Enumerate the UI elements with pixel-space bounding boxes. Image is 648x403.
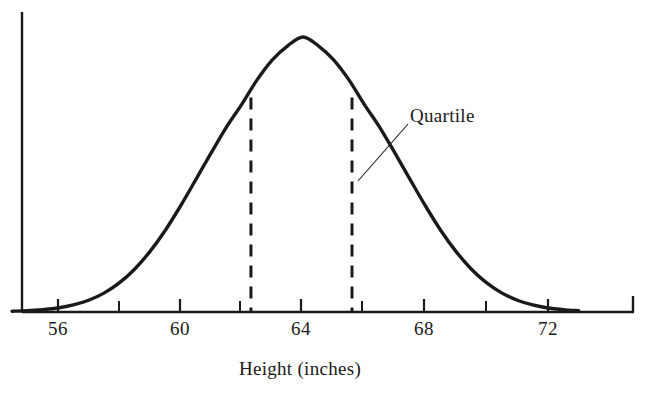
x-tick-label-56: 56 [48, 318, 68, 340]
x-tick-label-60: 60 [170, 318, 190, 340]
x-tick-label-72: 72 [538, 318, 558, 340]
distribution-curve [12, 37, 579, 311]
x-tick-label-64: 64 [291, 318, 311, 340]
chart-canvas [0, 0, 648, 403]
x-tick-label-68: 68 [414, 318, 434, 340]
quartile-annotation-label: Quartile [410, 105, 475, 127]
distribution-chart-figure: 56 60 64 68 72 Height (inches) Quartile [0, 0, 648, 403]
x-axis-major-ticks [58, 299, 548, 312]
x-axis-title: Height (inches) [239, 358, 361, 380]
x-axis-minor-ticks [119, 301, 486, 312]
